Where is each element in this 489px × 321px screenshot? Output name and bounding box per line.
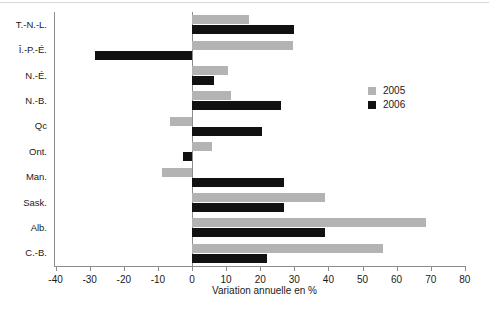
chart-figure: -40-30-20-1001020304050607080 T.-N.-L.Î.… [0,0,489,321]
y-category-label: Sask. [23,198,47,208]
y-axis-line [54,12,55,267]
bar-2005-N.-B. [192,91,231,100]
bar-2005-Î.-P.-É. [192,41,293,50]
x-tick [90,266,91,271]
bar-2006-N.-É. [192,76,214,85]
bar-2006-T.-N.-L. [192,25,294,34]
bar-2006-C.-B. [192,254,267,263]
x-tick [260,266,261,271]
legend-label-2005: 2005 [383,84,405,98]
x-tick [294,266,295,271]
x-axis-title-text: Variation annuelle en % [212,285,317,296]
bar-2005-Sask. [192,193,325,202]
y-category-label: Ont. [29,147,47,157]
plot-area: -40-30-20-1001020304050607080 T.-N.-L.Î.… [54,12,465,266]
x-tick [431,266,432,271]
x-tick [226,266,227,271]
x-tick [56,266,57,271]
bar-2005-T.-N.-L. [192,15,249,24]
x-axis-title: Variation annuelle en % [0,285,489,296]
bar-2005-Ont. [192,142,212,151]
top-divider [0,2,489,3]
x-tick [328,266,329,271]
bar-2006-Î.-P.-É. [95,51,192,60]
y-category-label: N.-B. [25,96,47,106]
x-tick [192,266,193,271]
x-tick [397,266,398,271]
y-category-label: Man. [26,172,47,182]
chart-legend: 2005 2006 [368,84,405,112]
y-category-label: N.-É. [25,71,47,81]
legend-swatch-2005 [368,87,376,95]
legend-item-2006: 2006 [368,98,405,112]
x-tick [158,266,159,271]
bar-2006-Qc [192,127,262,136]
bar-2005-N.-É. [192,66,228,75]
bar-2006-Ont. [183,152,192,161]
bar-2005-Qc [170,117,192,126]
bar-2005-Man. [162,168,192,177]
legend-item-2005: 2005 [368,84,405,98]
bar-2005-C.-B. [192,244,383,253]
legend-label-2006: 2006 [383,98,405,112]
y-category-label: C.-B. [25,248,47,258]
y-category-label: Qc [35,121,47,131]
bar-2006-N.-B. [192,101,281,110]
x-tick [363,266,364,271]
x-tick [124,266,125,271]
y-category-label: T.-N.-L. [16,20,47,30]
bar-2005-Alb. [192,218,426,227]
legend-swatch-2006 [368,101,376,109]
bar-2006-Man. [192,178,284,187]
bar-2006-Sask. [192,203,284,212]
y-category-label: Alb. [31,223,47,233]
x-tick [465,266,466,271]
y-category-label: Î.-P.-É. [19,45,47,55]
bar-2006-Alb. [192,228,325,237]
